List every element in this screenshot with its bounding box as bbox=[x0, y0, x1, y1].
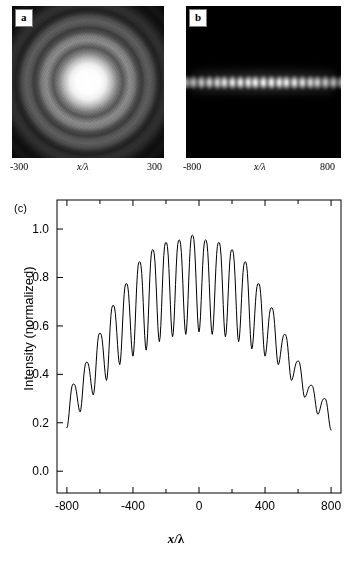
y-tick-label: 0.0 bbox=[32, 464, 49, 478]
intensity-curve bbox=[67, 235, 331, 430]
figure-root: a b -300 x/λ 300 -800 x/λ 800 (c) Intens… bbox=[0, 0, 352, 562]
panel-b-tag: b bbox=[189, 9, 207, 27]
panel-a-tag: a bbox=[15, 9, 33, 27]
panel-a-axis-title: x/λ bbox=[77, 161, 89, 172]
fringe-spot bbox=[336, 75, 342, 90]
y-axis-label: Intensity (normalized) bbox=[21, 239, 36, 419]
x-tick-label: -800 bbox=[55, 499, 79, 513]
x-axis-label: x/λ bbox=[0, 531, 352, 547]
image-vignette bbox=[12, 6, 164, 158]
plot-frame bbox=[57, 200, 341, 493]
panel-c-chart: (c) Intensity (normalized) x/λ -800-4000… bbox=[0, 186, 352, 562]
panel-b-axis-max: 800 bbox=[320, 161, 335, 172]
panel-b-image: b bbox=[186, 6, 341, 158]
panel-a-axis-min: -300 bbox=[10, 161, 28, 172]
x-tick-label: 0 bbox=[196, 499, 203, 513]
x-tick-label: 800 bbox=[321, 499, 341, 513]
panel-a-image: a bbox=[12, 6, 164, 158]
fringe-row bbox=[186, 67, 341, 97]
x-tick-label: -400 bbox=[121, 499, 145, 513]
y-tick-label: 1.0 bbox=[32, 222, 49, 236]
chart-svg: -800-40004008000.00.20.40.60.81.0 bbox=[0, 186, 352, 526]
x-tick-label: 400 bbox=[255, 499, 275, 513]
panel-c-tag: (c) bbox=[14, 202, 27, 214]
panel-a-axis-max: 300 bbox=[147, 161, 162, 172]
panel-b-axis-title: x/λ bbox=[254, 161, 266, 172]
panel-b-axis-min: -800 bbox=[183, 161, 201, 172]
